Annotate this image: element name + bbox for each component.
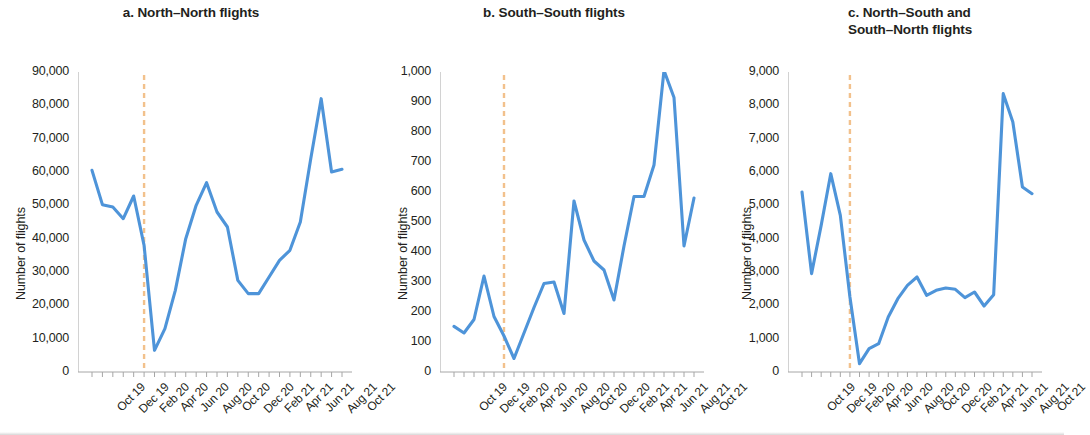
panel-b-y-tick-label: 100 — [381, 334, 431, 348]
panel-a-y-tick-label: 30,000 — [1, 264, 69, 278]
panel-a-y-axis-label: Number of flights — [14, 207, 28, 300]
panel-a-y-tick-label: 40,000 — [1, 231, 69, 245]
panel-a-y-tick-label: 0 — [1, 364, 69, 378]
chart-panel-c: c. North–South and South–North flights N… — [726, 0, 1064, 435]
panel-c-y-tick-label: 9,000 — [725, 64, 779, 78]
chart-panel-a: a. North–North flights Number of flights… — [0, 0, 382, 435]
panel-b-y-tick-label: 0 — [381, 364, 431, 378]
panel-a-y-tick-label: 80,000 — [1, 97, 69, 111]
panel-c-y-tick-label: 5,000 — [725, 197, 779, 211]
panel-c-title: c. North–South and South–North flights — [726, 4, 1090, 38]
panel-b-svg-canvas — [440, 72, 708, 382]
panel-b-y-tick-label: 200 — [381, 304, 431, 318]
panel-b-y-tick-label: 700 — [381, 154, 431, 168]
panel-c-y-tick-label: 2,000 — [725, 297, 779, 311]
panel-a-data-line — [92, 99, 342, 351]
panel-a-y-tick-label: 90,000 — [1, 64, 69, 78]
panel-b-y-tick-label: 900 — [381, 94, 431, 108]
panel-b-plot-area: 01002003004005006007008009001,000Oct 19D… — [440, 72, 702, 372]
panel-c-y-tick-label: 1,000 — [725, 331, 779, 345]
panel-c-title-line1: c. North–South and — [848, 5, 971, 20]
panel-b-title: b. South–South flights — [382, 4, 726, 21]
panel-a-y-tick-label: 50,000 — [1, 197, 69, 211]
panel-a-y-tick-label: 60,000 — [1, 164, 69, 178]
panel-c-y-tick-label: 8,000 — [725, 97, 779, 111]
panel-a-y-tick-label: 70,000 — [1, 131, 69, 145]
panel-b-y-tick-label: 400 — [381, 244, 431, 258]
panel-a-title: a. North–North flights — [0, 4, 382, 21]
panel-c-data-line — [802, 94, 1032, 364]
panel-c-y-tick-label: 0 — [725, 364, 779, 378]
panel-b-y-tick-label: 600 — [381, 184, 431, 198]
chart-panel-b: b. South–South flights Number of flights… — [382, 0, 726, 435]
panel-b-y-tick-label: 300 — [381, 274, 431, 288]
panel-c-y-tick-label: 7,000 — [725, 131, 779, 145]
panel-a-y-tick-label: 20,000 — [1, 297, 69, 311]
panel-a-y-tick-label: 10,000 — [1, 331, 69, 345]
panel-c-y-tick-label: 6,000 — [725, 164, 779, 178]
panel-b-y-tick-label: 800 — [381, 124, 431, 138]
panel-c-plot-area: 01,0002,0003,0004,0005,0006,0007,0008,00… — [788, 72, 1040, 372]
panel-c-title-line2: South–North flights — [848, 21, 1090, 38]
panel-b-title-line1: b. South–South flights — [483, 5, 625, 20]
panel-c-y-tick-label: 3,000 — [725, 264, 779, 278]
panel-c-y-axis-label: Number of flights — [740, 207, 754, 300]
panel-b-y-tick-label: 500 — [381, 214, 431, 228]
panel-c-y-tick-label: 4,000 — [725, 231, 779, 245]
panel-c-svg-canvas — [788, 72, 1046, 382]
panel-a-plot-area: 010,00020,00030,00040,00050,00060,00070,… — [78, 72, 350, 372]
panel-a-title-line1: a. North–North flights — [123, 5, 260, 20]
panel-b-y-tick-label: 1,000 — [381, 64, 431, 78]
panel-a-svg-canvas — [78, 72, 356, 382]
panel-b-data-line — [454, 72, 694, 359]
